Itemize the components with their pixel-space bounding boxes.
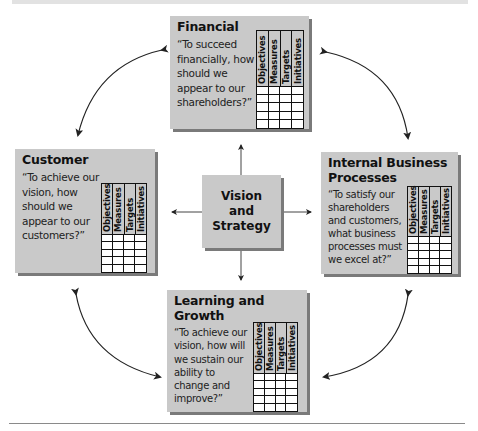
arrow-financial-customer bbox=[78, 50, 162, 135]
learning-growth-box: Learning and Growth “To achieve our visi… bbox=[167, 290, 307, 412]
arrow-customer-learning bbox=[76, 294, 160, 377]
financial-box: Financial “To succeed financially, how s… bbox=[170, 16, 309, 129]
financial-quote: “To succeed financially, how should we a… bbox=[177, 37, 254, 110]
learning-growth-scorecard-grid: Objectives Measures Targets Initiatives bbox=[253, 322, 298, 412]
col-initiatives: Initiatives bbox=[292, 31, 303, 86]
internal-business-title: Internal Business Processes bbox=[328, 155, 447, 185]
customer-title: Customer bbox=[22, 152, 88, 167]
financial-title: Financial bbox=[177, 19, 239, 34]
arrow-internal-learning bbox=[324, 295, 408, 377]
customer-scorecard-grid: Objectives Measures Targets Initiatives bbox=[101, 183, 147, 273]
internal-business-scorecard-grid: Objectives Measures Targets Initiatives bbox=[407, 186, 452, 274]
col-targets: Targets bbox=[281, 31, 293, 86]
internal-business-quote: “To satisfy our shareholders and custome… bbox=[328, 188, 402, 266]
col-objectives: Objectives bbox=[257, 31, 269, 86]
customer-quote: “To achieve our vision, how should we ap… bbox=[22, 170, 99, 243]
learning-growth-title: Learning and Growth bbox=[174, 293, 264, 323]
vision-strategy-box: Vision and Strategy bbox=[202, 175, 281, 248]
col-measures: Measures bbox=[269, 31, 281, 86]
bottom-rule bbox=[9, 423, 465, 424]
financial-scorecard-grid: Objectives Measures Targets Initiatives bbox=[256, 30, 304, 129]
customer-box: Customer “To achieve our vision, how sho… bbox=[15, 149, 155, 273]
arrow-financial-internal bbox=[326, 52, 408, 138]
learning-growth-quote: “To achieve our vision, how will we sust… bbox=[174, 326, 247, 406]
internal-business-box: Internal Business Processes “To satisfy … bbox=[321, 152, 458, 274]
vision-strategy-label: Vision and Strategy bbox=[212, 189, 271, 234]
